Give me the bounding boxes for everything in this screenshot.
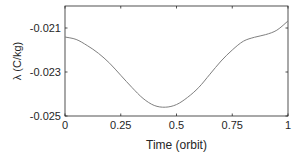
x-tick-label: 0.75	[222, 119, 243, 131]
y-tick-label: -0.025	[30, 110, 61, 122]
y-axis-label: λ (C/kg)	[11, 42, 23, 81]
y-tick-label: -0.023	[30, 66, 61, 78]
x-axis-label: Time (orbit)	[146, 138, 207, 152]
y-tick-labels: -0.025-0.023-0.021	[30, 22, 61, 122]
x-tick-label: 0	[62, 119, 68, 131]
x-tick-label: 1	[285, 119, 291, 131]
axes-box	[65, 6, 288, 116]
plot-area	[65, 6, 288, 116]
x-tick-labels: 00.250.50.751	[62, 119, 291, 131]
y-tick-label: -0.021	[30, 22, 61, 34]
x-tick-label: 0.25	[110, 119, 131, 131]
line-chart: 00.250.50.751 -0.025-0.023-0.021 Time (o…	[0, 0, 307, 156]
x-tick-label: 0.5	[169, 119, 184, 131]
